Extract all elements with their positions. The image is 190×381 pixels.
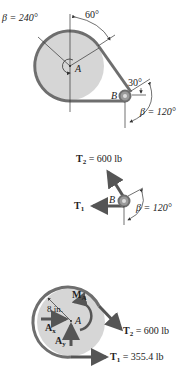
figure-1-belt-system: A β = 240° 60° B 30° β = 120° bbox=[1, 9, 176, 128]
pulley-B-hub bbox=[123, 94, 127, 98]
T2-arrow bbox=[108, 172, 123, 196]
pulley-B-fbd-hub bbox=[122, 199, 126, 203]
beta-B-label: β = 120° bbox=[139, 106, 176, 117]
angle-60-label: 60° bbox=[85, 9, 99, 20]
figure-3-pulley-A-fbd: MA 8 in. Ax Ay A T2 = 600 lb T1 = 355.4 … bbox=[33, 287, 169, 364]
label-B-fbd: B bbox=[109, 194, 115, 205]
extension-line bbox=[98, 35, 115, 46]
T2-label-fbd: T2 = 600 lb bbox=[123, 325, 169, 338]
belt-pulley-diagram: A β = 240° 60° B 30° β = 120° T2 = 600 l… bbox=[0, 0, 190, 381]
angle-30-label: 30° bbox=[128, 77, 142, 88]
beta-fbd-label: β = 120° bbox=[135, 202, 172, 213]
T1-label-fbd: T1 = 355.4 lb bbox=[110, 351, 164, 364]
center-A bbox=[69, 65, 71, 67]
tangent-ext-fbd bbox=[128, 188, 143, 196]
beta-A-label: β = 240° bbox=[1, 12, 38, 23]
label-A: A bbox=[74, 63, 82, 74]
center-A-fbd bbox=[70, 320, 72, 322]
label-B: B bbox=[111, 90, 117, 101]
label-A-fbd: A bbox=[74, 315, 82, 326]
figure-2-pulley-B-fbd: T2 = 600 lb T1 B β = 120° bbox=[74, 153, 172, 225]
T2-label: T2 = 600 lb bbox=[76, 153, 122, 166]
T1-label: T1 bbox=[74, 200, 85, 213]
radius-label: 8 in. bbox=[47, 304, 63, 314]
